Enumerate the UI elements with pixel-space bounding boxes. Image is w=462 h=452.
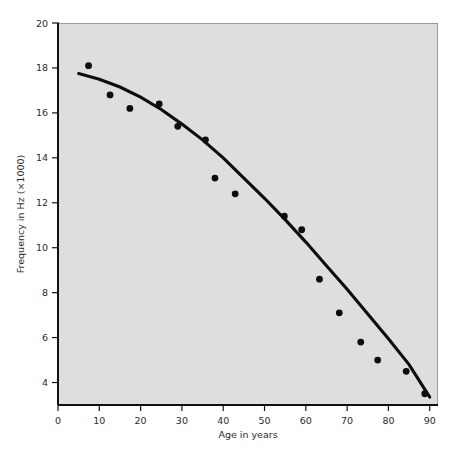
y-tick-label: 20 <box>36 18 48 29</box>
y-tick-label: 4 <box>42 377 48 388</box>
x-tick-label: 0 <box>55 415 61 426</box>
scatter-chart: 468101214161820 0102030405060708090 Age … <box>0 0 462 452</box>
y-tick-label: 18 <box>36 62 48 73</box>
x-tick-label: 80 <box>382 415 394 426</box>
y-tick-label: 16 <box>36 107 48 118</box>
y-tick-label: 6 <box>42 332 48 343</box>
figure-container: 468101214161820 0102030405060708090 Age … <box>0 0 462 452</box>
x-tick-label: 70 <box>341 415 353 426</box>
data-point <box>421 390 428 397</box>
data-point <box>281 213 288 220</box>
data-point <box>316 276 323 283</box>
x-tick-label: 10 <box>93 415 105 426</box>
data-point <box>85 62 92 69</box>
data-point <box>156 100 163 107</box>
data-point <box>298 226 305 233</box>
x-tick-label: 40 <box>217 415 229 426</box>
data-point <box>126 105 133 112</box>
x-tick-label: 60 <box>300 415 312 426</box>
data-point <box>212 175 219 182</box>
y-axis-ticks: 468101214161820 <box>36 18 59 389</box>
y-tick-label: 10 <box>36 242 48 253</box>
x-axis-title: Age in years <box>218 429 277 440</box>
data-point <box>336 309 343 316</box>
data-point <box>174 123 181 130</box>
x-tick-label: 50 <box>258 415 270 426</box>
data-point <box>403 368 410 375</box>
y-axis-title: Frequency in Hz (×1000) <box>15 155 26 273</box>
x-axis-ticks: 0102030405060708090 <box>55 404 436 426</box>
x-tick-label: 20 <box>135 415 147 426</box>
y-tick-label: 12 <box>36 197 48 208</box>
x-tick-label: 90 <box>424 415 436 426</box>
data-point <box>202 136 209 143</box>
plot-background <box>58 23 438 405</box>
data-point <box>357 339 364 346</box>
data-point <box>107 92 114 99</box>
y-tick-label: 8 <box>42 287 48 298</box>
data-point <box>232 190 239 197</box>
data-point <box>374 357 381 364</box>
x-tick-label: 30 <box>176 415 188 426</box>
y-tick-label: 14 <box>36 152 48 163</box>
